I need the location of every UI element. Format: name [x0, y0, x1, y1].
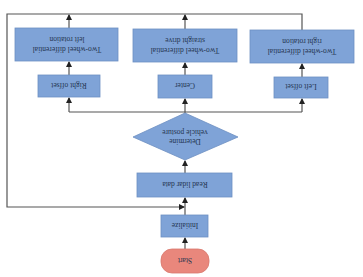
- flowchart-rotated-group: Start Initialize Read lidar data Determi…: [7, 14, 354, 273]
- node-right-offset-label: Right offset: [50, 81, 86, 90]
- node-straight-drive-line2: straight drive: [164, 36, 204, 45]
- node-decision: Determine vehicle posture: [133, 113, 238, 160]
- node-straight-drive-line1: Two-wheel differential: [151, 46, 220, 55]
- node-center-label: Center: [175, 81, 195, 90]
- node-left-rotation: Two-wheel differential left rotation: [15, 28, 118, 61]
- node-start-label: Start: [177, 256, 192, 265]
- node-right-rotation-line1: Two-wheel differential: [268, 47, 337, 56]
- node-read-lidar: Read lidar data: [137, 173, 232, 197]
- node-left-offset-label: Left offset: [284, 82, 316, 91]
- flowchart: Start Initialize Read lidar data Determi…: [0, 0, 363, 277]
- node-left-rotation-line1: Two-wheel differential: [33, 45, 102, 54]
- node-right-rotation: Two-wheel differential right rotation: [250, 30, 354, 63]
- node-read-lidar-label: Read lidar data: [162, 180, 208, 189]
- node-left-rotation-line2: left rotation: [49, 35, 84, 44]
- node-center: Center: [158, 75, 212, 98]
- node-initialize: Initialize: [161, 215, 208, 237]
- node-decision-line2: vehicle posture: [162, 128, 208, 137]
- node-start: Start: [161, 249, 209, 273]
- node-right-offset: Right offset: [38, 75, 100, 97]
- node-decision-line1: Determine: [169, 137, 201, 146]
- node-straight-drive: Two-wheel differential straight drive: [133, 29, 237, 62]
- node-left-offset: Left offset: [274, 77, 328, 98]
- flowchart-canvas: Start Initialize Read lidar data Determi…: [0, 0, 363, 277]
- node-right-rotation-line2: right rotation: [282, 37, 322, 46]
- node-initialize-label: Initialize: [171, 221, 198, 230]
